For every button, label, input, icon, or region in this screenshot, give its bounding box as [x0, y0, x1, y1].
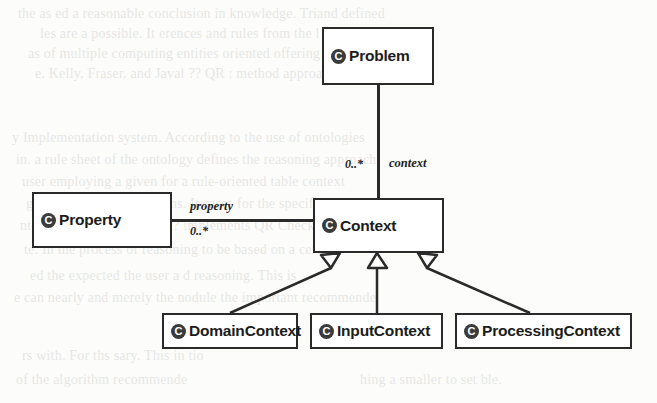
bleed-line: e can nearly and merely the nodule the i…: [14, 290, 376, 307]
bleed-line: ed the expected the user a d reasoning. …: [30, 268, 297, 285]
bleed-line: y Implementation system. According to th…: [12, 130, 365, 147]
role-label-property: property: [190, 199, 233, 214]
bleed-line: hing a smaller to set ble.: [360, 372, 502, 389]
multiplicity-property-context: 0..*: [190, 224, 208, 239]
class-box-problem[interactable]: C Problem: [322, 27, 434, 85]
role-label-context: context: [389, 156, 427, 171]
bleed-line: les are a possible. It erences and rules…: [40, 26, 320, 43]
association-line-problem-context: [377, 85, 380, 198]
class-name-label: Property: [59, 211, 121, 229]
class-name-label: Context: [340, 217, 396, 235]
class-box-processingcontext[interactable]: C ProcessingContext: [455, 313, 632, 349]
bleed-line: user employing a given for a rule-orient…: [22, 174, 345, 191]
bleed-line: rs with. For ths sary. This in tio: [22, 348, 204, 365]
class-name-label: ProcessingContext: [482, 322, 620, 340]
class-stereotype-icon: C: [464, 324, 479, 339]
bleed-line: the as ed a reasonable conclusion in kno…: [18, 6, 385, 23]
generalization-processingcontext: [418, 253, 530, 313]
class-stereotype-icon: C: [319, 324, 334, 339]
class-name-label: Problem: [349, 47, 410, 65]
class-name-label: InputContext: [337, 322, 430, 340]
class-box-inputcontext[interactable]: C InputContext: [310, 313, 443, 349]
class-stereotype-icon: C: [41, 213, 56, 228]
class-box-domaincontext[interactable]: C DomainContext: [162, 313, 298, 349]
bleed-line: of the algorithm recommende: [16, 372, 187, 389]
bleed-line: as of multiple computing entities orient…: [28, 46, 349, 63]
association-line-property-context: [172, 219, 313, 222]
class-stereotype-icon: C: [322, 218, 337, 233]
uml-diagram-canvas: the as ed a reasonable conclusion in kno…: [0, 0, 657, 403]
class-stereotype-icon: C: [171, 324, 186, 339]
multiplicity-problem-context: 0..*: [345, 157, 363, 172]
class-box-context[interactable]: C Context: [313, 198, 444, 253]
bleed-line: e. Kelly, Fraser, and Javal ?? QR : meth…: [35, 66, 336, 83]
bleed-line: in. a rule sheet of the ontology defines…: [16, 152, 377, 169]
class-name-label: DomainContext: [189, 322, 301, 340]
class-stereotype-icon: C: [331, 49, 346, 64]
class-box-property[interactable]: C Property: [32, 192, 172, 248]
